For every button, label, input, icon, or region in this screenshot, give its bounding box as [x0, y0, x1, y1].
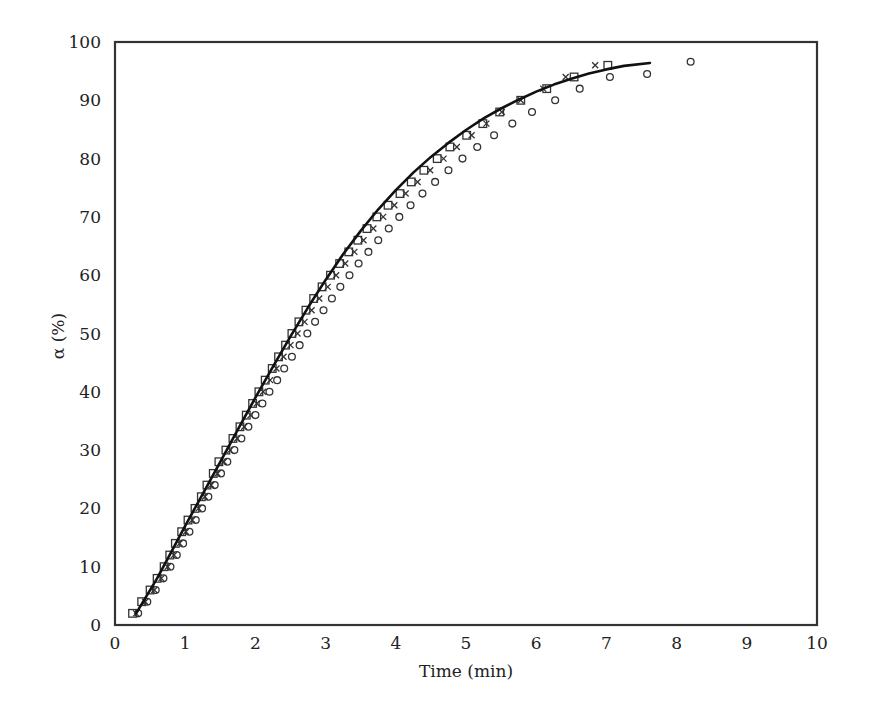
y-tick-label: 30	[79, 440, 101, 460]
x-tick-labels: 012345678910	[110, 633, 828, 653]
y-tick-label: 70	[79, 207, 101, 227]
circle-marker	[218, 470, 225, 477]
circle-marker	[224, 458, 231, 465]
series-x	[133, 62, 598, 616]
circle-marker	[259, 400, 266, 407]
y-tick-label: 60	[79, 265, 101, 285]
circle-marker	[281, 365, 288, 372]
x-tick-label: 6	[531, 633, 542, 653]
circle-marker	[186, 528, 193, 535]
chart: α (%) Time (min) 0102030405060708090100 …	[0, 0, 869, 705]
y-axis-title-group: α (%)	[48, 313, 68, 359]
x-tick-label: 10	[806, 633, 828, 653]
x-tick-label: 1	[180, 633, 191, 653]
y-tick-label: 20	[79, 498, 101, 518]
circle-marker	[355, 260, 362, 267]
x-tick-label: 8	[671, 633, 682, 653]
circle-marker	[474, 144, 481, 151]
circle-marker	[365, 248, 372, 255]
x-tick-label: 5	[461, 633, 472, 653]
circle-marker	[211, 482, 218, 489]
circle-marker	[304, 330, 311, 337]
circle-marker	[375, 237, 382, 244]
circle-marker	[385, 225, 392, 232]
circle-marker	[644, 71, 651, 78]
circle-marker	[459, 155, 466, 162]
y-tick-label: 40	[79, 382, 101, 402]
x-marker	[267, 377, 273, 383]
circle-marker	[320, 307, 327, 314]
circle-marker	[419, 190, 426, 197]
x-marker	[592, 62, 598, 68]
series-square	[129, 62, 612, 618]
circle-marker	[491, 132, 498, 139]
circle-marker	[192, 517, 199, 524]
y-tick-label: 10	[79, 557, 101, 577]
square-marker	[407, 178, 415, 186]
circle-marker	[252, 412, 259, 419]
y-axis-title: α (%)	[48, 313, 68, 359]
y-tick-label: 90	[79, 90, 101, 110]
circle-marker	[329, 295, 336, 302]
x-marker	[288, 342, 294, 348]
x-tick-label: 4	[390, 633, 401, 653]
y-tick-label: 0	[90, 615, 101, 635]
x-marker	[454, 144, 460, 150]
square-marker	[420, 166, 428, 174]
circle-marker	[432, 179, 439, 186]
y-tick-label: 100	[69, 32, 101, 52]
circle-marker	[266, 388, 273, 395]
circle-marker	[509, 120, 516, 127]
x-tick-label: 9	[741, 633, 752, 653]
circle-marker	[289, 353, 296, 360]
series-circle	[135, 58, 694, 616]
circle-marker	[552, 97, 559, 104]
circle-marker	[180, 540, 187, 547]
circle-marker	[296, 342, 303, 349]
circle-marker	[407, 202, 414, 209]
circle-marker	[346, 272, 353, 279]
circle-marker	[445, 167, 452, 174]
x-axis-title: Time (min)	[419, 661, 513, 681]
x-tick-label: 0	[110, 633, 121, 653]
circle-marker	[205, 493, 212, 500]
square-marker	[433, 155, 441, 163]
circle-marker	[231, 447, 238, 454]
circle-marker	[238, 435, 245, 442]
circle-marker	[274, 377, 281, 384]
circle-marker	[607, 74, 614, 81]
circle-marker	[337, 283, 344, 290]
circle-marker	[245, 423, 252, 430]
circle-marker	[396, 214, 403, 221]
plot-area	[129, 58, 694, 617]
circle-marker	[312, 318, 319, 325]
circle-marker	[199, 505, 206, 512]
x-tick-label: 3	[320, 633, 331, 653]
fit-line	[136, 63, 650, 613]
y-tick-label: 80	[79, 149, 101, 169]
x-marker	[469, 132, 475, 138]
y-tick-label: 50	[79, 324, 101, 344]
circle-marker	[576, 85, 583, 92]
y-tick-labels: 0102030405060708090100	[69, 32, 101, 635]
model-fit	[136, 63, 650, 613]
circle-marker	[687, 58, 694, 65]
circle-marker	[529, 109, 536, 116]
x-tick-label: 2	[250, 633, 261, 653]
x-tick-label: 7	[601, 633, 612, 653]
